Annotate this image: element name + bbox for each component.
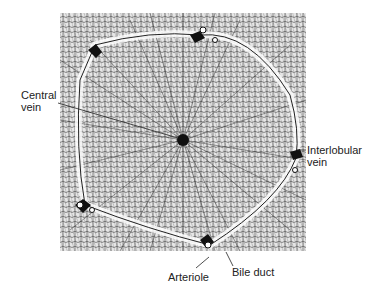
arteriole-leader	[196, 257, 209, 268]
bile-duct-label-text: Bile duct	[232, 266, 274, 278]
tissue-square	[60, 13, 306, 251]
central-vein-label-line1: Central	[21, 89, 56, 101]
arteriole-label-text: Arteriole	[168, 271, 209, 283]
bile-duct-leader	[226, 252, 233, 266]
bile-duct-label: Bile duct	[232, 266, 274, 278]
arteriole-label: Arteriole	[168, 271, 209, 283]
interlobular-vein-label-line1: Interlobular	[307, 144, 362, 156]
central-vein-label: Central vein	[21, 89, 56, 113]
central-vein	[177, 134, 189, 146]
central-vein-label-line2: vein	[21, 101, 56, 113]
interlobular-vein-label-line2: vein	[307, 156, 362, 168]
interlobular-vein-label: Interlobular vein	[307, 144, 362, 168]
